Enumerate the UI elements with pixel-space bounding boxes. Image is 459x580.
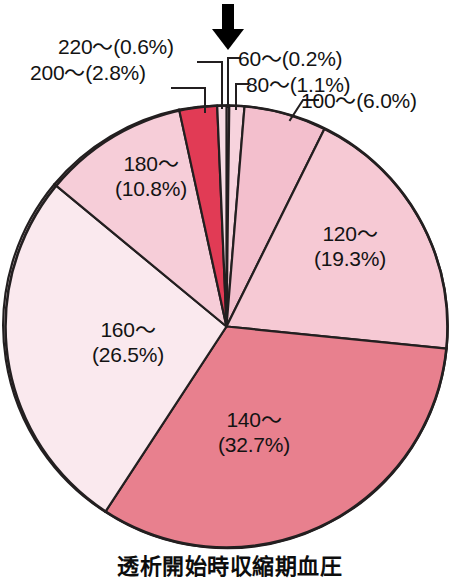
slice-label-160-range: 160〜 bbox=[66, 318, 190, 343]
slice-label-120-percent: (19.3%) bbox=[288, 247, 412, 272]
callout-label-100: 100〜(6.0%) bbox=[301, 90, 417, 112]
slice-label-180-percent: (10.8%) bbox=[92, 177, 210, 202]
slice-label-140-percent: (32.7%) bbox=[192, 433, 316, 458]
slice-label-140-range: 140〜 bbox=[192, 408, 316, 433]
callout-label-200: 200〜(2.8%) bbox=[30, 62, 146, 84]
top-arrow-icon bbox=[212, 4, 244, 50]
figure-title: 透析開始時収縮期血圧 bbox=[0, 548, 459, 580]
slice-label-120-range: 120〜 bbox=[288, 222, 412, 247]
callout-label-60: 60〜(0.2%) bbox=[238, 48, 342, 70]
slice-label-120: 120〜 (19.3%) bbox=[288, 222, 412, 272]
slice-label-160: 160〜 (26.5%) bbox=[66, 318, 190, 368]
leader-line-220 bbox=[198, 62, 222, 108]
slice-label-180: 180〜 (10.8%) bbox=[92, 152, 210, 202]
slice-label-180-range: 180〜 bbox=[92, 152, 210, 177]
callout-label-220: 220〜(0.6%) bbox=[58, 36, 174, 58]
slice-label-140: 140〜 (32.7%) bbox=[192, 408, 316, 458]
slice-label-160-percent: (26.5%) bbox=[66, 343, 190, 368]
